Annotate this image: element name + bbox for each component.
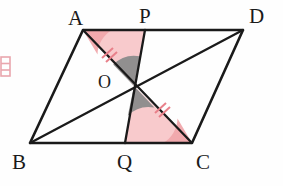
geometry-figure: A P D B Q C O: [0, 0, 283, 186]
vertex-label-P: P: [139, 6, 151, 27]
vertex-label-A: A: [68, 8, 83, 29]
vertex-label-Q: Q: [117, 152, 132, 173]
vertex-label-B: B: [12, 152, 26, 173]
vertex-label-C: C: [196, 152, 210, 173]
vertex-label-D: D: [249, 6, 264, 27]
vertex-label-O: O: [98, 73, 111, 91]
margin-glyph-icon: [1, 57, 10, 76]
